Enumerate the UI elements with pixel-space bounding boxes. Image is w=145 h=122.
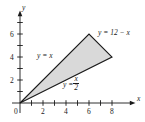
- fraction-x-over-2: x2: [73, 75, 79, 92]
- y-axis-label: y: [22, 4, 25, 12]
- y-tick-label-2: 2: [10, 77, 14, 85]
- shaded-region: [20, 34, 112, 103]
- x-tick-label-2: 2: [41, 108, 45, 116]
- plot-area: [0, 0, 145, 122]
- x-tick-label-8: 8: [110, 108, 114, 116]
- figure-container: y x 0 2 4 6 8 2 4 6 y = x y = 12 − x y =…: [0, 0, 145, 122]
- x-axis-arrow: [130, 101, 136, 106]
- y-tick-label-6: 6: [10, 31, 14, 39]
- curve-label-y-equals-x-over-2: y =x2: [63, 75, 79, 92]
- curve-label-y-equals-x: y = x: [37, 52, 52, 60]
- x-tick-label-4: 4: [64, 108, 68, 116]
- fraction-denominator: 2: [73, 84, 79, 92]
- origin-tick-label: 0: [14, 108, 18, 116]
- x-tick-label-6: 6: [87, 108, 91, 116]
- y-tick-label-4: 4: [10, 54, 14, 62]
- x-axis-label: x: [137, 95, 140, 103]
- curve-label-y-equals-12-minus-x: y = 12 − x: [98, 29, 130, 37]
- curve-label-prefix: y =: [63, 80, 73, 89]
